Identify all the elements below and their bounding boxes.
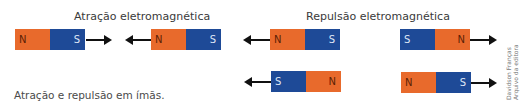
arrow-left-icon: [127, 39, 151, 41]
arrow-right-icon: [470, 39, 495, 41]
south-pole: S: [50, 29, 85, 50]
south-pole: S: [186, 29, 221, 50]
north-pole: N: [306, 71, 341, 92]
north-pole: N: [15, 29, 50, 50]
image-credit: Davidson Franças Arquivo da editora: [505, 44, 519, 100]
arrow-left-icon: [246, 81, 271, 83]
magnet-5: S N: [271, 71, 341, 92]
south-pole: S: [436, 72, 471, 93]
magnet-1: N S: [15, 29, 85, 50]
north-pole: N: [435, 29, 470, 50]
figure-caption: Atração e repulsão em ímãs.: [14, 89, 165, 101]
arrow-right-icon: [471, 82, 495, 84]
south-pole: S: [400, 29, 435, 50]
repulsion-title: Repulsão eletromagnética: [306, 10, 450, 23]
arrow-left-icon: [245, 39, 270, 41]
north-pole: N: [151, 29, 186, 50]
south-pole: S: [305, 29, 340, 50]
arrow-right-icon: [86, 39, 110, 41]
magnet-6: N S: [401, 72, 471, 93]
magnet-2: N S: [151, 29, 221, 50]
north-pole: N: [270, 29, 305, 50]
north-pole: N: [401, 72, 436, 93]
magnet-3: N S: [270, 29, 340, 50]
magnet-4: S N: [400, 29, 470, 50]
south-pole: S: [271, 71, 306, 92]
attraction-title: Atração eletromagnética: [74, 10, 210, 23]
